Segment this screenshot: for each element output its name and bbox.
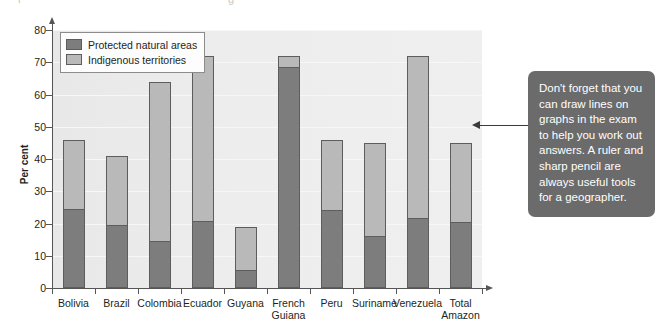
bar-venezuela [407, 56, 429, 288]
x-axis-tick [181, 289, 182, 294]
bar-segment-protected [107, 226, 127, 287]
x-axis-category-label: Total Amazon [435, 297, 486, 321]
bar-suriname [364, 143, 386, 288]
bar-segment-protected [279, 68, 299, 287]
bar-segment-divider [107, 225, 127, 226]
bar-segment-indigenous [193, 57, 213, 225]
bar-segment-indigenous [150, 83, 170, 244]
bar-segment-indigenous [322, 141, 342, 214]
bar-segment-divider [322, 210, 342, 211]
y-axis-tick-label: 70 [4, 56, 46, 68]
cropped-top-text: r g [0, 0, 664, 9]
bar-segment-indigenous [64, 141, 84, 212]
bar-bolivia [63, 140, 85, 288]
y-axis-title: Per cent [19, 125, 30, 205]
legend-label-indigenous: Indigenous territories [88, 54, 186, 66]
y-axis-tick-label: 80 [4, 24, 46, 36]
y-axis-arrow-icon [49, 17, 55, 24]
bar-segment-indigenous [236, 228, 256, 273]
bar-segment-protected [193, 222, 213, 287]
callout-arrow-icon [472, 121, 528, 129]
bar-total-amazon [450, 143, 472, 288]
bar-segment-indigenous [451, 144, 471, 225]
bar-ecuador [192, 56, 214, 288]
legend-swatch-icon-protected [66, 39, 82, 50]
bar-segment-divider [150, 241, 170, 242]
bar-segment-divider [279, 67, 299, 68]
x-axis-tick [95, 289, 96, 294]
x-axis-tick [482, 289, 483, 294]
x-axis-line [52, 288, 488, 289]
screenshot-root: r g 01020304050607080 Per cent BoliviaBr… [0, 0, 664, 328]
bar-colombia [149, 82, 171, 288]
bar-guyana [235, 227, 257, 288]
bar-french-guiana [278, 56, 300, 288]
bar-segment-indigenous [107, 157, 127, 228]
legend-label-protected: Protected natural areas [88, 39, 197, 51]
bar-segment-protected [64, 210, 84, 287]
callout-tip-box: Don't forget that you can draw lines on … [528, 71, 655, 217]
bar-segment-divider [408, 218, 428, 219]
bar-peru [321, 140, 343, 288]
y-axis-tick-label: 20 [4, 218, 46, 230]
x-axis-tick [353, 289, 354, 294]
bar-segment-divider [193, 221, 213, 222]
bar-segment-indigenous [365, 144, 385, 239]
stacked-bar-chart: 01020304050607080 Per cent BoliviaBrazil… [0, 9, 500, 328]
x-axis-tick [310, 289, 311, 294]
bar-brazil [106, 156, 128, 288]
legend-item-indigenous-territories: Indigenous territories [66, 52, 197, 67]
bar-segment-divider [236, 270, 256, 271]
x-axis-tick [52, 289, 53, 294]
x-axis-arrow-icon [486, 285, 493, 291]
bar-segment-divider [365, 236, 385, 237]
x-axis-tick [224, 289, 225, 294]
callout-tip-text: Don't forget that you can draw lines on … [539, 82, 643, 203]
callout-arrow-shaft [479, 125, 528, 126]
y-axis-tick-label: 0 [4, 282, 46, 294]
bar-segment-indigenous [408, 57, 428, 221]
bar-segment-protected [365, 237, 385, 287]
y-axis-line [52, 23, 53, 289]
bar-segment-protected [451, 223, 471, 288]
bar-segment-divider [451, 222, 471, 223]
x-axis-tick [396, 289, 397, 294]
bar-segment-protected [236, 271, 256, 287]
legend-item-protected-natural-areas: Protected natural areas [66, 37, 197, 52]
bar-segment-protected [322, 211, 342, 287]
chart-legend: Protected natural areas Indigenous terri… [60, 32, 205, 73]
bar-segment-protected [408, 219, 428, 287]
bar-segment-protected [150, 242, 170, 287]
x-axis-tick [439, 289, 440, 294]
cropped-text-fragment-right: g [228, 0, 234, 4]
bar-segment-divider [64, 209, 84, 210]
cropped-text-fragment-left: r [18, 0, 22, 4]
y-axis-tick-label: 60 [4, 89, 46, 101]
x-axis-tick [138, 289, 139, 294]
legend-swatch-icon-indigenous [66, 54, 82, 65]
x-axis-tick [267, 289, 268, 294]
gridline [52, 30, 482, 31]
y-axis-tick-label: 10 [4, 250, 46, 262]
